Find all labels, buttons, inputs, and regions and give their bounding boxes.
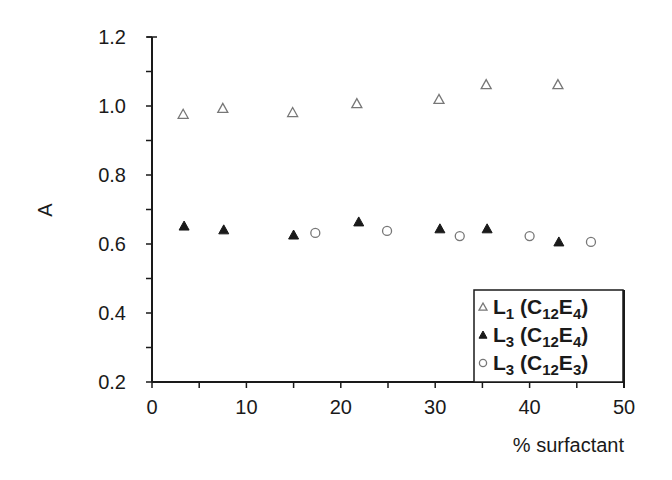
y-tick-label: 0.2 — [98, 371, 126, 393]
y-tick-label: 0.8 — [98, 164, 126, 186]
x-tick-label: 20 — [330, 396, 352, 418]
filled-triangle-marker — [289, 230, 299, 239]
open-circle-marker — [311, 228, 320, 237]
open-triangle-marker — [553, 80, 563, 89]
filled-triangle-marker — [435, 224, 445, 233]
open-circle-marker — [586, 237, 595, 246]
open-circle-marker — [525, 232, 534, 241]
y-tick-label: 1.0 — [98, 95, 126, 117]
open-triangle-marker — [352, 99, 362, 108]
data-points — [178, 80, 595, 247]
filled-triangle-marker — [354, 217, 364, 226]
x-tick-label: 10 — [235, 396, 257, 418]
open-triangle-marker — [178, 109, 188, 118]
x-tick-label: 50 — [613, 396, 635, 418]
filled-triangle-marker — [554, 237, 564, 246]
filled-triangle-marker — [482, 224, 492, 233]
x-tick-label: 30 — [424, 396, 446, 418]
y-tick-label: 0.4 — [98, 302, 126, 324]
scatter-chart: 0.20.40.60.81.01.201020304050 L1 (C12E4)… — [0, 0, 672, 480]
x-tick-label: 0 — [146, 396, 157, 418]
y-tick-label: 1.2 — [98, 26, 126, 48]
filled-triangle-marker — [219, 225, 229, 234]
open-triangle-marker — [434, 94, 444, 103]
open-triangle-marker — [218, 103, 228, 112]
open-triangle-marker — [481, 80, 491, 89]
open-circle-marker — [383, 226, 392, 235]
y-tick-label: 0.6 — [98, 233, 126, 255]
x-axis-title: % surfactant — [513, 434, 625, 456]
legend: L1 (C12E4)L3 (C12E4)L3 (C12E3) — [474, 290, 623, 382]
open-circle-marker — [455, 232, 464, 241]
filled-triangle-marker — [179, 221, 189, 230]
open-triangle-marker — [288, 108, 298, 117]
x-tick-label: 40 — [518, 396, 540, 418]
y-axis-title: A — [34, 203, 56, 217]
